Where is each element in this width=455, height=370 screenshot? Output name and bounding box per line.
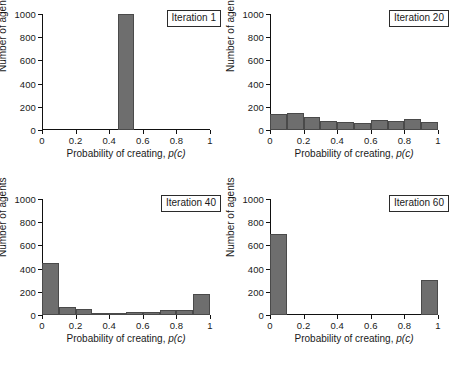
x-axis-tick-label: 0.2 xyxy=(297,320,311,331)
x-axis-tick xyxy=(109,130,110,134)
y-axis-tick-label: 1000 xyxy=(242,194,264,205)
x-axis-tick-label: 1 xyxy=(435,320,440,331)
x-axis-label-text: Probability of creating, xyxy=(295,148,397,159)
x-axis-tick xyxy=(337,130,338,134)
iteration-label: Iteration 60 xyxy=(389,195,449,212)
x-axis-label: Probability of creating, p(c) xyxy=(42,148,210,159)
x-axis-tick-label: 0.2 xyxy=(69,135,83,146)
plot-area: 0200400600800100000.20.40.60.81 xyxy=(42,199,210,315)
x-axis-tick-label: 0 xyxy=(267,320,272,331)
histogram-panel: Number of agentsProbability of creating,… xyxy=(228,185,455,370)
y-axis-tick-label: 400 xyxy=(20,78,36,89)
x-axis-tick xyxy=(76,315,77,319)
x-axis-tick xyxy=(42,130,43,134)
histogram-panel: Number of agentsProbability of creating,… xyxy=(0,0,227,185)
y-axis-tick-label: 1000 xyxy=(242,9,264,20)
iteration-label: Iteration 40 xyxy=(161,195,221,212)
x-axis-tick xyxy=(371,130,372,134)
bar-series xyxy=(270,14,438,130)
y-axis-tick-label: 400 xyxy=(248,78,264,89)
x-axis-tick-label: 0.8 xyxy=(398,320,412,331)
x-axis-tick xyxy=(143,315,144,319)
histogram-bar xyxy=(160,310,177,315)
x-axis-label-symbol: p(c) xyxy=(168,148,185,159)
x-axis-tick xyxy=(176,315,177,319)
histogram-bar xyxy=(76,309,93,315)
x-axis-tick xyxy=(304,315,305,319)
x-axis-tick-label: 0.8 xyxy=(398,135,412,146)
histogram-bar xyxy=(337,122,354,130)
x-axis-tick-label: 0 xyxy=(267,135,272,146)
x-axis-label-symbol: p(c) xyxy=(396,148,413,159)
histogram-panel: Number of agentsProbability of creating,… xyxy=(0,185,227,370)
bar-series xyxy=(42,14,210,130)
y-axis-tick-label: 800 xyxy=(248,32,264,43)
x-axis-tick-label: 0.2 xyxy=(69,320,83,331)
x-axis-label-text: Probability of creating, xyxy=(295,333,397,344)
plot-area: 0200400600800100000.20.40.60.81 xyxy=(42,14,210,130)
x-axis-tick-label: 0.8 xyxy=(170,320,184,331)
y-axis-tick-label: 600 xyxy=(248,55,264,66)
y-axis-tick-label: 1000 xyxy=(14,194,36,205)
x-axis-tick-label: 1 xyxy=(207,320,212,331)
histogram-bar xyxy=(92,313,109,315)
x-axis-tick-label: 1 xyxy=(435,135,440,146)
histogram-bar xyxy=(371,120,388,130)
x-axis-tick xyxy=(438,130,439,134)
y-axis-tick-label: 200 xyxy=(20,101,36,112)
histogram-panel: Number of agentsProbability of creating,… xyxy=(228,0,455,185)
histogram-bar xyxy=(118,14,135,130)
y-axis-tick-label: 1000 xyxy=(14,9,36,20)
y-axis-label: Number of agents xyxy=(0,0,8,72)
x-axis-tick-label: 0.4 xyxy=(102,320,116,331)
histogram-bar xyxy=(176,310,193,315)
x-axis-tick xyxy=(438,315,439,319)
histogram-bar xyxy=(143,312,160,315)
x-axis-tick xyxy=(304,130,305,134)
x-axis-tick-label: 0.8 xyxy=(170,135,184,146)
y-axis-tick-label: 800 xyxy=(248,217,264,228)
x-axis-tick xyxy=(210,315,211,319)
y-axis-tick-label: 800 xyxy=(20,32,36,43)
x-axis-tick xyxy=(371,315,372,319)
histogram-bar xyxy=(109,313,126,315)
y-axis-tick-label: 0 xyxy=(259,310,264,321)
x-axis-tick-label: 0.4 xyxy=(102,135,116,146)
y-axis-tick-label: 600 xyxy=(20,240,36,251)
x-axis-tick-label: 0.6 xyxy=(136,135,150,146)
x-axis-tick xyxy=(404,315,405,319)
figure-histogram-grid: Number of agentsProbability of creating,… xyxy=(0,0,455,370)
x-axis-tick-label: 0.6 xyxy=(136,320,150,331)
x-axis-tick-label: 0.4 xyxy=(330,320,344,331)
x-axis-tick-label: 0 xyxy=(39,135,44,146)
x-axis-label: Probability of creating, p(c) xyxy=(270,333,438,344)
y-axis-tick-label: 400 xyxy=(20,263,36,274)
x-axis-label: Probability of creating, p(c) xyxy=(270,148,438,159)
y-axis-label: Number of agents xyxy=(225,178,236,258)
histogram-bar xyxy=(421,280,438,315)
bar-series xyxy=(270,199,438,315)
histogram-bar xyxy=(270,114,287,130)
x-axis-label-text: Probability of creating, xyxy=(67,333,169,344)
x-axis-tick xyxy=(210,130,211,134)
x-axis-tick-label: 0 xyxy=(39,320,44,331)
histogram-bar xyxy=(404,119,421,130)
iteration-label: Iteration 20 xyxy=(389,10,449,27)
plot-area: 0200400600800100000.20.40.60.81 xyxy=(270,14,438,130)
histogram-bar xyxy=(42,263,59,315)
x-axis-tick xyxy=(143,130,144,134)
x-axis-label-symbol: p(c) xyxy=(396,333,413,344)
x-axis-tick xyxy=(42,315,43,319)
histogram-bar xyxy=(287,113,304,130)
histogram-bar xyxy=(304,117,321,130)
x-axis-tick xyxy=(404,130,405,134)
histogram-bar xyxy=(421,122,438,130)
y-axis-tick-label: 0 xyxy=(259,125,264,136)
x-axis-label-symbol: p(c) xyxy=(168,333,185,344)
y-axis-tick-label: 200 xyxy=(248,286,264,297)
caption-cutoff xyxy=(0,362,455,370)
y-axis-tick-label: 600 xyxy=(248,240,264,251)
histogram-bar xyxy=(59,307,76,315)
iteration-label: Iteration 1 xyxy=(167,10,221,27)
x-axis-tick xyxy=(270,130,271,134)
